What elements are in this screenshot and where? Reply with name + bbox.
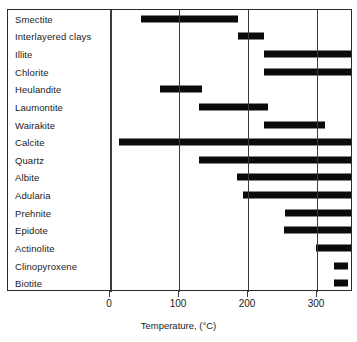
- range-bar: [238, 33, 264, 40]
- range-bar: [141, 15, 238, 22]
- range-bar: [316, 244, 351, 251]
- category-label: Wairakite: [15, 119, 55, 130]
- range-bar: [237, 174, 352, 181]
- tick-label: 100: [170, 298, 187, 309]
- range-bar: [334, 262, 348, 269]
- tick-mark: [247, 291, 248, 297]
- category-label: Laumontite: [15, 101, 63, 112]
- gridline-300: [317, 10, 318, 292]
- gridline-100: [179, 10, 180, 292]
- category-label: Epidote: [15, 225, 48, 236]
- category-label: Actinolite: [15, 242, 55, 253]
- category-label: Quartz: [15, 154, 44, 165]
- category-label: Smectite: [15, 13, 53, 24]
- category-label: Heulandite: [15, 84, 61, 95]
- gridline-0: [110, 10, 112, 292]
- range-bar: [334, 280, 348, 287]
- range-bar: [160, 86, 202, 93]
- tick-label: 300: [308, 298, 325, 309]
- tick-label: 0: [106, 298, 112, 309]
- range-bar: [264, 51, 352, 58]
- range-bar: [199, 156, 351, 163]
- range-bar: [199, 103, 268, 110]
- category-label: Calcite: [15, 137, 45, 148]
- category-label: Albite: [15, 172, 39, 183]
- mineral-temperature-range-chart: SmectiteInterlayered claysIlliteChlorite…: [0, 0, 357, 342]
- category-label: Illite: [15, 49, 33, 60]
- plot-frame: SmectiteInterlayered claysIlliteChlorite…: [7, 9, 352, 291]
- range-bar: [264, 68, 352, 75]
- tick-mark: [316, 291, 317, 297]
- category-label: Biotite: [15, 278, 42, 289]
- category-label: Interlayered clays: [15, 31, 91, 42]
- x-axis-title: Temperature, (°C): [0, 320, 357, 331]
- category-label: Clinopyroxene: [15, 260, 77, 271]
- gridline-200: [248, 10, 249, 292]
- tick-mark: [178, 291, 179, 297]
- range-bar: [243, 192, 351, 199]
- category-label: Prehnite: [15, 207, 51, 218]
- tick-mark: [109, 291, 110, 297]
- category-label: Adularia: [15, 190, 51, 201]
- category-label: Chlorite: [15, 66, 49, 77]
- tick-label: 200: [239, 298, 256, 309]
